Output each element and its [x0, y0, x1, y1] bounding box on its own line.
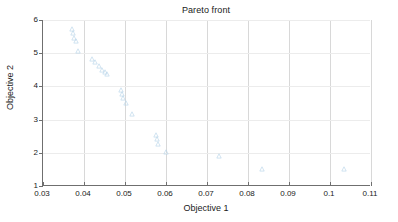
data-point	[93, 60, 98, 65]
data-point	[69, 27, 74, 32]
data-point	[259, 166, 264, 171]
y-tick	[39, 186, 43, 187]
gridline-horizontal	[43, 86, 370, 87]
gridline-vertical	[125, 20, 126, 185]
y-tick	[39, 120, 43, 121]
y-axis-label: Objective 2	[5, 58, 16, 118]
x-tick	[207, 182, 208, 186]
chart-title: Pareto front	[0, 5, 398, 16]
x-tick-label: 0.06	[157, 189, 173, 199]
gridline-horizontal	[43, 153, 370, 154]
x-tick-label: 0.1	[323, 189, 334, 199]
y-tick	[39, 86, 43, 87]
x-tick	[289, 182, 290, 186]
gridline-vertical	[84, 20, 85, 185]
gridline-vertical	[371, 20, 372, 185]
chart-figure: Pareto front 0.030.040.050.060.070.080.0…	[0, 0, 398, 222]
y-tick-label: 4	[26, 81, 38, 91]
data-point	[97, 64, 102, 69]
plot-area	[42, 20, 370, 186]
x-tick	[166, 182, 167, 186]
gridline-horizontal	[43, 120, 370, 121]
y-tick-label: 1	[26, 181, 38, 191]
data-point	[130, 111, 135, 116]
x-tick-label: 0.04	[75, 189, 91, 199]
data-point	[72, 35, 77, 40]
gridline-vertical	[289, 20, 290, 185]
x-tick	[125, 182, 126, 186]
y-tick	[39, 153, 43, 154]
gridline-vertical	[248, 20, 249, 185]
data-point	[90, 57, 95, 62]
data-point	[70, 31, 75, 36]
y-tick	[39, 53, 43, 54]
x-tick	[330, 182, 331, 186]
gridline-vertical	[166, 20, 167, 185]
gridline-horizontal	[43, 20, 370, 21]
data-point	[102, 70, 107, 75]
data-point	[104, 72, 109, 77]
data-point	[99, 67, 104, 72]
data-point	[154, 132, 159, 137]
x-tick-label: 0.08	[239, 189, 255, 199]
gridline-vertical	[330, 20, 331, 185]
x-tick	[43, 182, 44, 186]
gridline-vertical	[207, 20, 208, 185]
x-tick	[371, 182, 372, 186]
data-point	[217, 154, 222, 159]
x-tick-label: 0.11	[363, 189, 378, 199]
data-point	[154, 136, 159, 141]
data-point	[118, 88, 123, 93]
x-tick-label: 0.07	[198, 189, 214, 199]
x-tick	[84, 182, 85, 186]
y-tick	[39, 20, 43, 21]
x-axis-label: Objective 1	[42, 203, 370, 214]
y-tick-label: 5	[26, 48, 38, 58]
gridline-horizontal	[43, 53, 370, 54]
data-point	[155, 141, 160, 146]
x-tick-label: 0.09	[280, 189, 296, 199]
data-point	[74, 39, 79, 44]
x-tick-label: 0.05	[116, 189, 132, 199]
x-tick	[248, 182, 249, 186]
data-point	[120, 91, 125, 96]
y-tick-label: 6	[26, 15, 38, 25]
data-point	[341, 167, 346, 172]
y-tick-label: 2	[26, 148, 38, 158]
y-tick-label: 3	[26, 115, 38, 125]
